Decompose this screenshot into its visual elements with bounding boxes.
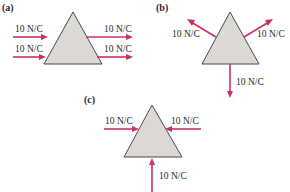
arrow-up-icon xyxy=(149,158,155,192)
triangle-a xyxy=(44,12,102,64)
arrow-right-icon xyxy=(13,54,46,60)
arrow-label: 10 N/C xyxy=(159,171,187,181)
arrow-down-icon xyxy=(227,64,233,98)
arrow-right-icon xyxy=(104,126,139,132)
panel-b: (b) 10 N/C 10 N/C 10 N/C xyxy=(156,2,285,98)
arrow-label: 10 N/C xyxy=(257,29,285,39)
arrow-right-icon xyxy=(97,54,133,60)
arrow-label: 10 N/C xyxy=(105,116,133,126)
panel-a-label: (a) xyxy=(2,2,14,14)
electric-field-diagram: (a) 10 N/C 10 N/C 10 N/C 10 N/C xyxy=(0,0,290,192)
arrow-label: 10 N/C xyxy=(236,77,264,87)
panel-a: (a) 10 N/C 10 N/C 10 N/C 10 N/C xyxy=(2,2,133,64)
arrow-label: 10 N/C xyxy=(15,24,43,34)
arrow-label: 10 N/C xyxy=(15,44,43,54)
arrow-right-icon xyxy=(13,34,48,40)
arrow-label: 10 N/C xyxy=(171,116,199,126)
panel-c: (c) 10 N/C 10 N/C 10 N/C xyxy=(84,94,201,192)
arrow-label: 10 N/C xyxy=(104,44,132,54)
arrow-label: 10 N/C xyxy=(104,24,132,34)
triangle-b xyxy=(202,12,259,64)
arrow-left-icon xyxy=(165,126,201,132)
arrow-label: 10 N/C xyxy=(172,29,200,39)
arrow-right-icon xyxy=(86,34,133,40)
panel-c-label: (c) xyxy=(84,94,95,106)
panel-b-label: (b) xyxy=(156,2,168,14)
